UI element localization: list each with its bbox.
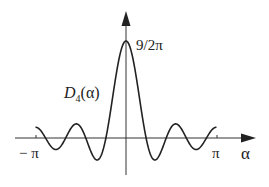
x-axis-label: α bbox=[241, 144, 250, 163]
y-axis-arrow-icon bbox=[122, 11, 131, 26]
x-axis-arrow-icon bbox=[241, 134, 256, 143]
x-tick-label-pi: π bbox=[212, 145, 220, 161]
dirichlet-kernel-plot: 9/2π D4(α) − π π α bbox=[0, 0, 269, 187]
peak-label: 9/2π bbox=[136, 37, 163, 53]
curve-label: D4(α) bbox=[63, 84, 100, 104]
curve-label-name: D bbox=[63, 84, 76, 101]
x-tick-label-minus-pi: − π bbox=[19, 145, 39, 161]
curve-label-argument: (α) bbox=[81, 84, 100, 102]
